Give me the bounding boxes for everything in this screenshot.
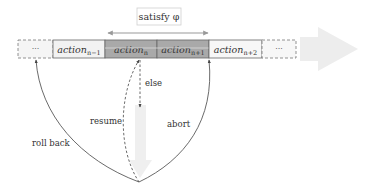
edge-roll-back-label: roll back [32, 138, 71, 148]
edge-abort-label: abort [167, 119, 191, 129]
svg-text:···: ··· [32, 44, 40, 53]
diagram-canvas: satisfy φ ··· actionn−1 actionn actionn+… [0, 0, 373, 191]
svg-text:···: ··· [275, 44, 283, 53]
else-direction-arrow [129, 105, 152, 178]
condition-label: satisfy φ [139, 11, 180, 22]
timeline: ··· actionn−1 actionn actionn+1 actionn+… [18, 40, 296, 58]
edge-else-label: else [145, 78, 162, 88]
edge-resume-label: resume [90, 116, 122, 126]
timeline-direction-arrow [300, 27, 358, 71]
condition-label-box: satisfy φ [137, 8, 181, 25]
